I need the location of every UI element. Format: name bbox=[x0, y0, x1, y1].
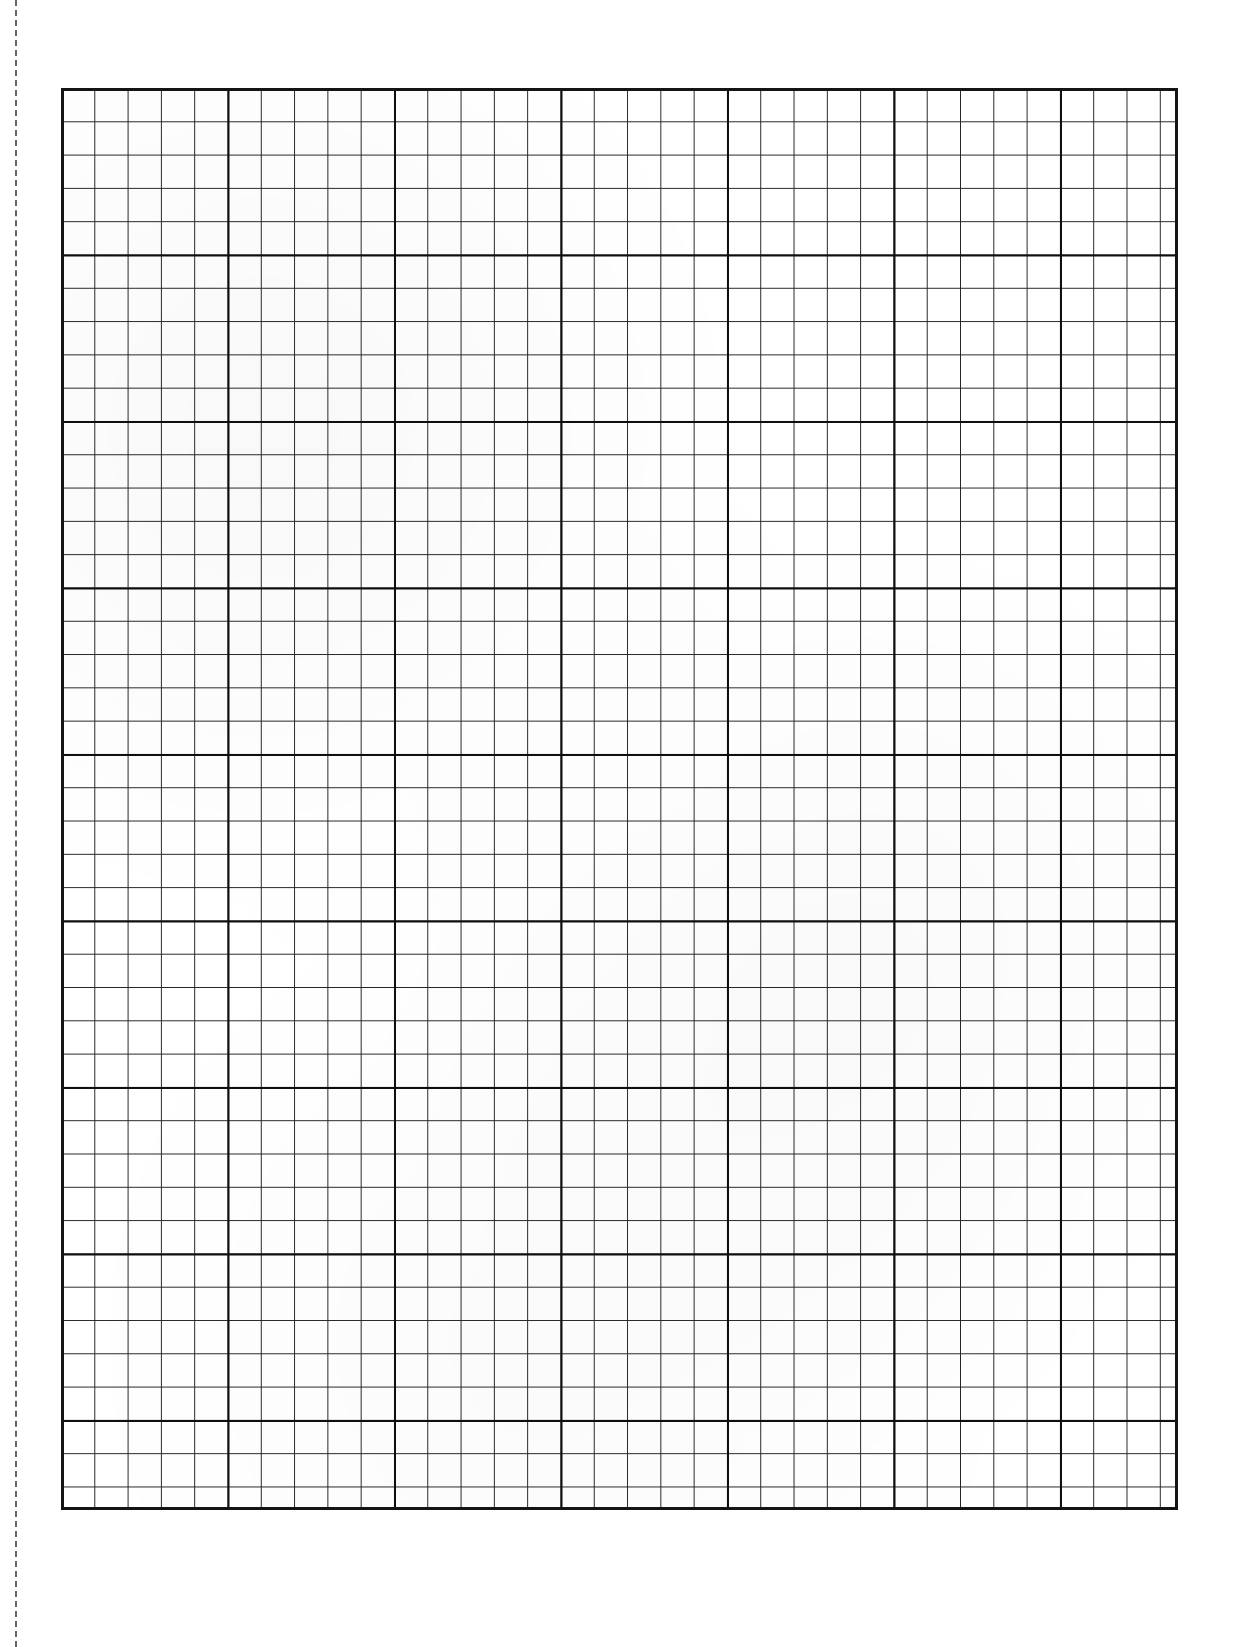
graph-paper-page: Blank Graph Paper Sheet bbox=[0, 0, 1238, 1647]
graph-grid bbox=[61, 88, 1178, 1510]
grid-major-lines bbox=[61, 88, 1178, 1510]
page-title: Blank Graph Paper Sheet bbox=[0, 21, 1, 22]
left-margin-dashed-line bbox=[15, 0, 17, 1647]
